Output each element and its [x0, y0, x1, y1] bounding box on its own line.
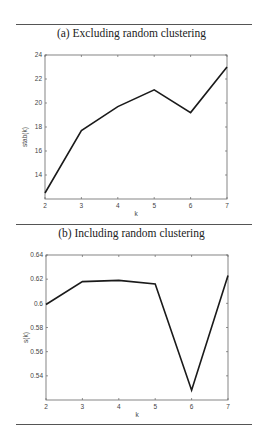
x-axis-label: k [135, 411, 139, 418]
y-tick-label: 18 [35, 123, 43, 130]
y-tick-label: 0.54 [30, 372, 43, 379]
y-tick-label: 14 [35, 171, 43, 178]
x-tick-label: 4 [116, 202, 120, 209]
y-tick-label: 0.64 [30, 251, 43, 258]
y-axis-label: stab(k) [21, 127, 29, 147]
x-tick-label: 4 [117, 403, 121, 410]
y-tick-label: 24 [35, 51, 43, 58]
axes-frame [45, 55, 227, 199]
y-tick-label: 20 [35, 99, 43, 106]
y-axis-label: s(k) [22, 332, 30, 343]
chart-panel-a: 234567141618202224kstab(k) [21, 51, 229, 217]
x-tick-label: 5 [152, 202, 156, 209]
y-tick-label: 0.62 [30, 275, 43, 282]
y-tick-label: 16 [35, 147, 43, 154]
x-tick-label: 2 [44, 403, 48, 410]
y-tick-label: 0.6 [34, 300, 43, 307]
x-tick-label: 5 [153, 403, 157, 410]
y-tick-label: 22 [35, 75, 43, 82]
x-tick-label: 7 [226, 403, 230, 410]
x-tick-label: 3 [80, 202, 84, 209]
x-tick-label: 6 [189, 202, 193, 209]
y-tick-label: 0.56 [30, 348, 43, 355]
axes-frame [46, 255, 228, 400]
x-tick-label: 6 [190, 403, 194, 410]
figure-plots: 234567141618202224kstab(k)2345670.540.56… [0, 0, 263, 446]
x-tick-label: 2 [43, 202, 47, 209]
data-line [46, 276, 228, 391]
x-tick-label: 7 [225, 202, 229, 209]
y-tick-label: 0.58 [30, 324, 43, 331]
chart-panel-b: 2345670.540.560.580.60.620.64ks(k) [22, 251, 230, 418]
x-axis-label: k [134, 210, 138, 217]
data-line [45, 67, 227, 193]
x-tick-label: 3 [81, 403, 85, 410]
